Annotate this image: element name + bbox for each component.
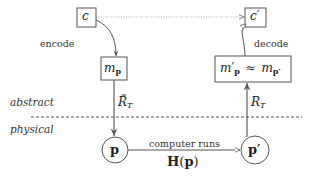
- approx-symbol: ≈: [246, 61, 256, 75]
- p-subscript: p: [115, 66, 121, 76]
- decode-edge: [242, 24, 246, 56]
- node-m-p-prime-label: m′p ≈ mp′: [220, 62, 281, 75]
- t-subscript: T: [127, 101, 132, 110]
- node-c-label: c: [82, 10, 89, 22]
- h-text: H: [167, 154, 179, 169]
- physical-layer-label: physical: [10, 124, 54, 135]
- encode-label: encode: [40, 39, 74, 49]
- paren-close: ): [193, 154, 198, 169]
- prime-mark: ′: [257, 9, 260, 23]
- node-c-prime-text: c: [250, 9, 257, 23]
- abstract-layer-label: abstract: [10, 97, 54, 108]
- encode-edge: [96, 20, 116, 56]
- decode-label: decode: [254, 39, 288, 49]
- r-tilde-text: R̃: [118, 95, 127, 109]
- diagram-canvas: [0, 0, 309, 176]
- node-m-p-label: mp: [104, 62, 121, 75]
- m-text: m: [261, 61, 272, 75]
- r-text: R: [251, 95, 260, 109]
- m-text: m: [104, 61, 115, 75]
- r-label: RT: [251, 96, 265, 110]
- node-c-prime-label: c′: [250, 10, 259, 22]
- node-p-label: p: [110, 143, 119, 156]
- r-tilde-label: R̃T: [118, 96, 132, 110]
- node-p-prime-label: p′: [248, 143, 261, 156]
- node-c-text: c: [82, 9, 89, 23]
- m-text: m: [220, 61, 231, 75]
- computer-runs-label: computer runs: [149, 139, 220, 149]
- p-subscript: p: [234, 66, 240, 76]
- hamiltonian-label: H(p): [167, 155, 199, 168]
- t-subscript: T: [260, 101, 265, 110]
- p-prime-subscript: p′: [273, 66, 281, 76]
